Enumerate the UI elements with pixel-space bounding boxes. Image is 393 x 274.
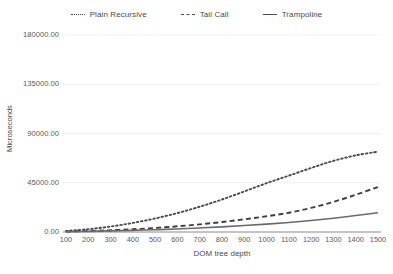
y-tick-label: 135000.00: [23, 80, 59, 88]
legend-line-solid-icon: [263, 14, 277, 15]
legend-label-tail-call: Tail Call: [200, 10, 229, 19]
chart-container: Plain Recursive Tail Call Trampoline 0.0…: [0, 0, 393, 274]
y-tick-label: 180000.00: [23, 31, 59, 39]
y-tick-label: 90000.00: [27, 130, 59, 138]
x-tick-label: 1500: [363, 235, 393, 244]
legend-item-tail-call[interactable]: Tail Call: [181, 10, 229, 19]
legend-item-trampoline[interactable]: Trampoline: [263, 10, 323, 19]
legend-item-plain-recursive[interactable]: Plain Recursive: [71, 10, 147, 19]
legend-line-dotted-icon: [71, 14, 85, 15]
legend-line-dashed-icon: [181, 14, 195, 15]
y-axis-title: Microseconds: [5, 89, 14, 169]
plot-area: [63, 35, 381, 232]
plot-svg: [63, 35, 381, 232]
x-axis-title: DOM tree depth: [63, 249, 381, 258]
legend-label-trampoline: Trampoline: [282, 10, 323, 19]
series-line-tail-call: [66, 187, 378, 232]
legend-label-plain-recursive: Plain Recursive: [90, 10, 147, 19]
y-tick-label: 45000.00: [27, 179, 59, 187]
